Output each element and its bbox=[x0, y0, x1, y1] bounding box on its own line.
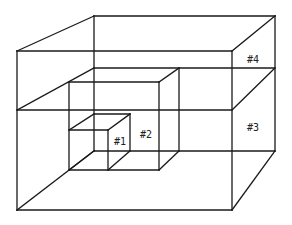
box2-depth-bottom-right bbox=[159, 151, 179, 170]
outer-depth-top-right bbox=[232, 16, 275, 51]
middle-divider-plane bbox=[17, 68, 275, 110]
box1-depth-top-left bbox=[69, 114, 94, 130]
label-box-4: #4 bbox=[247, 55, 259, 65]
outer-depth-bottom-right bbox=[232, 151, 275, 210]
box2-depth-bottom-left bbox=[69, 151, 94, 170]
label-box-1: #1 bbox=[114, 137, 126, 147]
label-box-3: #3 bbox=[247, 123, 259, 133]
nested-cubes-diagram bbox=[0, 0, 292, 225]
box2-depth-top-right bbox=[159, 68, 179, 82]
divider-depth-left bbox=[17, 68, 94, 110]
box1-depth-bottom-right bbox=[108, 151, 130, 170]
box1-depth-top-right bbox=[108, 114, 130, 130]
outer-depth-top-left bbox=[17, 16, 94, 51]
outer-box bbox=[17, 16, 275, 210]
label-box-2: #2 bbox=[140, 130, 152, 140]
divider-depth-right bbox=[232, 68, 275, 110]
